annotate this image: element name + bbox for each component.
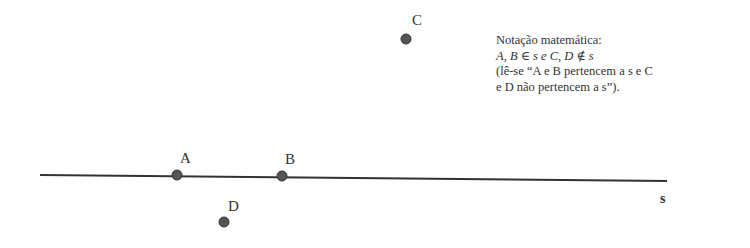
note-notation-text: A, B ∈ s e C, D ∉ s — [496, 49, 594, 63]
label-b: B — [285, 151, 295, 167]
label-line-s: s — [660, 191, 666, 206]
point-d — [219, 217, 229, 227]
label-a: A — [180, 150, 191, 166]
note-reading-2: e D não pertencem a s”). — [496, 80, 653, 96]
point-c — [401, 34, 411, 44]
label-d: D — [228, 198, 239, 214]
notation-note: Notação matemática: A, B ∈ s e C, D ∉ s … — [496, 33, 653, 95]
note-reading-1: (lê-se “A e B pertencem a s e C — [496, 64, 653, 80]
line-s — [40, 175, 667, 181]
note-notation: A, B ∈ s e C, D ∉ s — [496, 49, 653, 65]
point-a — [172, 170, 182, 180]
note-title: Notação matemática: — [496, 33, 653, 49]
point-b — [277, 171, 287, 181]
label-c: C — [412, 12, 422, 28]
